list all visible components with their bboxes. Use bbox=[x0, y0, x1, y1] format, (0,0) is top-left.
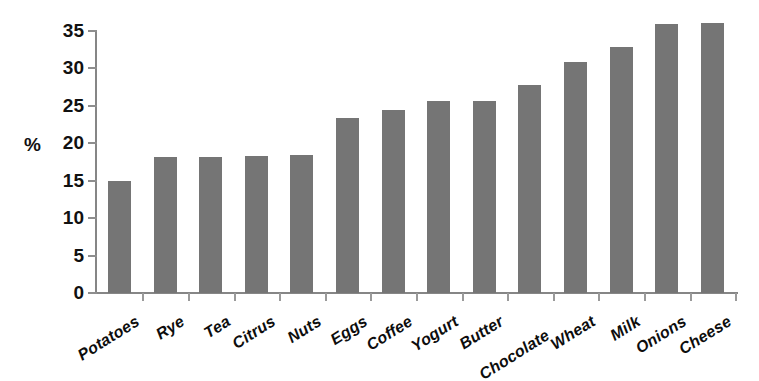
bar[interactable] bbox=[382, 110, 405, 293]
x-axis-tick-label: Citrus bbox=[100, 313, 278, 381]
y-axis-title: % bbox=[24, 135, 41, 154]
y-axis-tick-label: 30 bbox=[50, 58, 84, 77]
x-axis-tick bbox=[370, 293, 372, 301]
x-axis-tick bbox=[462, 293, 464, 301]
x-axis-tick bbox=[416, 293, 418, 301]
bar[interactable] bbox=[154, 157, 177, 293]
x-axis-tick bbox=[644, 293, 646, 301]
bar[interactable] bbox=[564, 62, 587, 293]
x-axis-tick-label: Eggs bbox=[192, 313, 370, 381]
bar[interactable] bbox=[610, 47, 633, 293]
x-axis-tick bbox=[553, 293, 555, 301]
bar[interactable] bbox=[701, 23, 724, 293]
y-axis-tick-label: 20 bbox=[50, 133, 84, 152]
bar[interactable] bbox=[290, 155, 313, 293]
x-axis-tick-label: Rye bbox=[9, 313, 187, 381]
y-axis-tick-label: 15 bbox=[50, 171, 84, 190]
y-axis-tick bbox=[88, 67, 97, 69]
x-axis-tick-label: Wheat bbox=[420, 313, 598, 381]
x-axis-tick-label: Cheese bbox=[556, 313, 734, 381]
x-axis-tick-label: Onions bbox=[511, 313, 689, 381]
y-axis-tick bbox=[88, 180, 97, 182]
x-axis-tick bbox=[142, 293, 144, 301]
bar[interactable] bbox=[655, 24, 678, 293]
x-axis-tick bbox=[735, 293, 737, 301]
x-axis-tick bbox=[690, 293, 692, 301]
bar[interactable] bbox=[427, 101, 450, 293]
y-axis-tick bbox=[88, 217, 97, 219]
x-axis-tick bbox=[188, 293, 190, 301]
y-axis-tick-label: 5 bbox=[50, 246, 84, 265]
x-axis-tick-label: Nuts bbox=[146, 313, 324, 381]
y-axis-tick bbox=[88, 105, 97, 107]
x-axis-tick bbox=[234, 293, 236, 301]
x-axis-tick bbox=[507, 293, 509, 301]
y-axis-tick bbox=[88, 30, 97, 32]
y-axis-tick-label: 25 bbox=[50, 96, 84, 115]
x-axis-tick bbox=[325, 293, 327, 301]
x-axis-tick bbox=[279, 293, 281, 301]
bar[interactable] bbox=[518, 85, 541, 293]
x-axis-tick-label: Butter bbox=[328, 313, 506, 381]
y-axis-tick-label: 10 bbox=[50, 208, 84, 227]
x-axis-tick-label: Chocolate bbox=[374, 327, 552, 381]
y-axis-tick-label: 35 bbox=[50, 21, 84, 40]
y-axis-tick bbox=[88, 255, 97, 257]
x-axis-tick-label: Milk bbox=[465, 313, 643, 381]
x-axis-tick bbox=[598, 293, 600, 301]
plot-area bbox=[95, 31, 737, 293]
bar[interactable] bbox=[473, 101, 496, 293]
x-axis-tick-label: Coffee bbox=[237, 313, 415, 381]
y-axis-tick bbox=[88, 292, 97, 294]
bar-chart: % 05101520253035 PotatoesRyeTeaCitrusNut… bbox=[0, 0, 759, 381]
y-axis-tick-labels: 05101520253035 bbox=[44, 0, 84, 381]
y-axis-tick bbox=[88, 142, 97, 144]
bar[interactable] bbox=[199, 157, 222, 293]
bar[interactable] bbox=[245, 156, 268, 293]
y-axis-tick-label: 0 bbox=[50, 283, 84, 302]
bar[interactable] bbox=[336, 118, 359, 293]
bar[interactable] bbox=[108, 181, 131, 293]
x-axis-tick-label: Yogurt bbox=[283, 313, 461, 381]
